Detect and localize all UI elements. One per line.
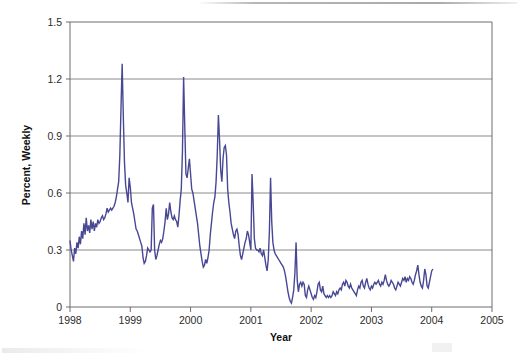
x-axis-title: Year — [270, 331, 292, 343]
x-tick-label-7: 2005 — [480, 314, 504, 326]
x-tick-label-5: 2003 — [360, 314, 384, 326]
x-tick-label-6: 2004 — [420, 314, 444, 326]
x-tick-label-1: 1999 — [119, 314, 143, 326]
y-tick-label-1: 0.3 — [47, 244, 62, 256]
y-tick-label-2: 0.6 — [47, 187, 62, 199]
data-series — [70, 64, 433, 303]
series-line-0 — [70, 64, 433, 303]
figure-canvas: 00.30.60.91.21.5199819992000200120022003… — [0, 0, 517, 360]
line-chart: 00.30.60.91.21.5199819992000200120022003… — [0, 0, 517, 360]
axis-tick-labels: 00.30.60.91.21.5199819992000200120022003… — [47, 16, 503, 326]
y-tick-label-5: 1.5 — [47, 16, 62, 28]
y-tick-label-0: 0 — [56, 301, 62, 313]
x-tick-label-3: 2001 — [239, 314, 263, 326]
y-tick-label-4: 1.2 — [47, 73, 62, 85]
x-tick-label-0: 1998 — [58, 314, 82, 326]
x-tick-label-2: 2000 — [179, 314, 203, 326]
x-tick-label-4: 2002 — [299, 314, 323, 326]
axis-ticks — [66, 22, 492, 312]
y-tick-label-3: 0.9 — [47, 130, 62, 142]
grid-lines — [70, 79, 492, 250]
y-axis-title: Percent, Weekly — [20, 125, 32, 206]
